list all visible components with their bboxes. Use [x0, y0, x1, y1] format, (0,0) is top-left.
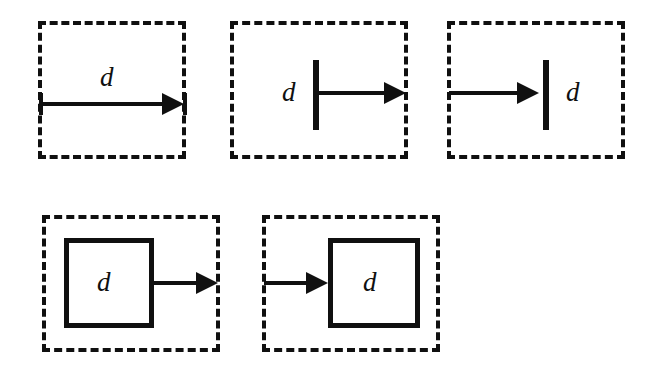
dashed-region-boundary: [230, 21, 408, 159]
panel-1-label: d: [100, 64, 114, 91]
panel-4: d: [42, 215, 220, 352]
vertical-bar-marker: [543, 60, 549, 130]
panel-2: d: [230, 21, 408, 159]
arrow-shaft: [316, 91, 388, 95]
panel-1: d: [38, 21, 186, 159]
arrow-head-icon: [517, 82, 539, 104]
arrow-head-icon: [384, 82, 406, 104]
panel-3: d: [447, 21, 625, 159]
panel-4-label: d: [97, 269, 111, 296]
panel-5: d: [262, 215, 440, 352]
arrow-head-icon: [162, 93, 184, 115]
panel-5-label: d: [363, 269, 377, 296]
arrow-head-icon: [196, 272, 218, 294]
arrow-head-icon: [306, 272, 328, 294]
arrow-shaft: [449, 91, 521, 95]
arrow-target-tick: [183, 93, 187, 115]
arrow-shaft: [40, 102, 166, 106]
vertical-bar-marker: [313, 60, 319, 130]
figure-canvas: d d d d d: [0, 0, 657, 369]
panel-3-label: d: [566, 79, 580, 106]
arrow-shaft: [152, 281, 200, 285]
arrow-shaft: [264, 281, 310, 285]
panel-2-label: d: [282, 79, 296, 106]
